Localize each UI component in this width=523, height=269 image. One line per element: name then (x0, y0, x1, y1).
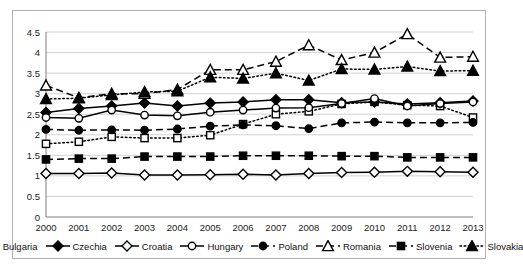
legend-item-croatia[interactable]: Croatia (114, 240, 173, 252)
data-point-marker (141, 127, 148, 134)
data-point-marker (271, 56, 282, 66)
data-point-marker (272, 152, 279, 159)
data-point-marker (271, 95, 281, 105)
data-point-marker (174, 125, 181, 132)
data-point-marker (108, 133, 115, 140)
data-point-marker (304, 168, 314, 178)
data-point-marker (305, 152, 312, 159)
data-point-marker (207, 122, 214, 129)
legend-item-czechia[interactable]: Czechia (45, 240, 107, 252)
data-point-marker (272, 104, 279, 111)
legend-marker (53, 241, 63, 251)
legend-item-romania[interactable]: Romania (315, 240, 381, 252)
legend-label: Romania (343, 241, 381, 252)
data-point-marker (205, 98, 215, 108)
chart-legend: BulgariaCzechiaCroatiaHungaryPolandRoman… (14, 236, 484, 256)
data-point-marker (272, 122, 279, 129)
x-tick-label: 2000 (35, 222, 56, 233)
legend-symbol-open-square-icon (0, 240, 1, 252)
x-tick-label: 2007 (265, 222, 286, 233)
x-tick-label: 2002 (101, 222, 122, 233)
data-point-marker (371, 95, 378, 102)
data-point-marker (205, 170, 215, 180)
legend-label: Bulgaria (3, 241, 38, 252)
data-point-marker (402, 29, 413, 39)
data-point-marker (108, 126, 115, 133)
data-point-marker (41, 168, 51, 178)
data-point-marker (239, 106, 246, 113)
data-point-marker (404, 119, 411, 126)
data-point-marker (174, 112, 181, 119)
legend-marker (122, 241, 132, 251)
series-romania (41, 29, 479, 103)
data-point-marker (42, 140, 49, 147)
x-tick-label: 2010 (364, 222, 385, 233)
x-tick-label: 2001 (68, 222, 89, 233)
y-tick-label: 1 (35, 170, 40, 181)
legend-symbol-open-circle-icon (179, 240, 205, 252)
data-point-marker (172, 101, 182, 111)
data-point-marker (107, 168, 117, 178)
data-point-marker (75, 127, 82, 134)
x-tick-label: 2012 (430, 222, 451, 233)
y-tick-label: 4 (35, 47, 40, 58)
legend-symbol-open-diamond-icon (114, 240, 140, 252)
data-point-marker (436, 119, 443, 126)
data-point-marker (238, 169, 248, 179)
data-point-marker (207, 132, 214, 139)
data-point-marker (271, 170, 281, 180)
data-point-marker (74, 168, 84, 178)
legend-label: Croatia (142, 241, 173, 252)
legend-marker (189, 242, 196, 249)
x-axis-ticks: 2000200120022003200420052006200720082009… (35, 222, 483, 233)
legend-marker (260, 242, 267, 249)
series-croatia (41, 166, 478, 180)
data-point-marker (404, 154, 411, 161)
legend-symbol-filled-square-icon (388, 240, 414, 252)
data-point-marker (75, 155, 82, 162)
x-tick-label: 2013 (462, 222, 483, 233)
data-point-marker (42, 114, 49, 121)
data-point-marker (303, 40, 314, 50)
data-point-marker (238, 97, 248, 107)
data-point-marker (305, 104, 312, 111)
data-point-marker (435, 52, 446, 62)
x-tick-label: 2004 (167, 222, 188, 233)
data-point-marker (369, 64, 380, 74)
data-point-marker (402, 166, 412, 176)
x-tick-label: 2011 (397, 222, 417, 233)
data-point-marker (141, 153, 148, 160)
legend-item-bulgaria[interactable]: Bulgaria (0, 240, 38, 252)
data-point-marker (239, 121, 246, 128)
data-point-marker (172, 170, 182, 180)
x-tick-label: 2005 (200, 222, 221, 233)
data-point-marker (141, 134, 148, 141)
data-point-marker (303, 75, 314, 85)
x-tick-label: 2006 (233, 222, 254, 233)
y-tick-label: 2 (35, 129, 40, 140)
legend-item-slovakia[interactable]: Slovakia (459, 240, 523, 252)
y-tick-label: 3.5 (27, 68, 40, 79)
data-point-marker (371, 153, 378, 160)
data-point-marker (141, 111, 148, 118)
data-point-marker (207, 153, 214, 160)
legend-item-slovenia[interactable]: Slovenia (388, 240, 452, 252)
y-axis-ticks: 00.511.522.533.544.5 (27, 27, 40, 223)
data-point-marker (305, 125, 312, 132)
y-tick-label: 0.5 (27, 191, 40, 202)
y-tick-label: 4.5 (27, 27, 40, 38)
data-point-marker (469, 154, 476, 161)
legend-item-hungary[interactable]: Hungary (179, 240, 243, 252)
series-layer (41, 29, 479, 180)
data-point-marker (239, 152, 246, 159)
y-tick-label: 3 (35, 88, 40, 99)
x-tick-label: 2009 (331, 222, 352, 233)
data-point-marker (75, 115, 82, 122)
legend-symbol-filled-diamond-icon (45, 240, 71, 252)
legend-symbol-filled-triangle-icon (459, 240, 485, 252)
legend-label: Slovenia (416, 241, 452, 252)
data-point-marker (469, 119, 476, 126)
data-point-marker (108, 106, 115, 113)
data-point-marker (371, 118, 378, 125)
legend-item-poland[interactable]: Poland (250, 240, 308, 252)
